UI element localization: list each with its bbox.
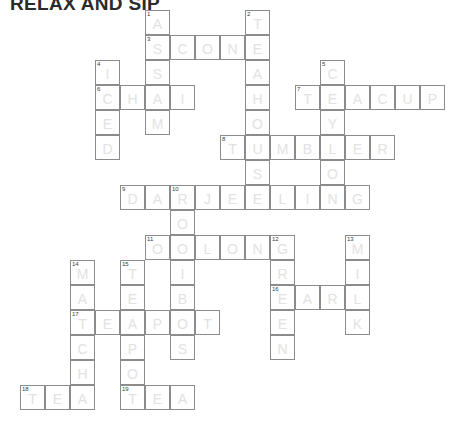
grid-cell[interactable]: B	[295, 135, 320, 160]
cell-letter: T	[121, 386, 144, 409]
grid-cell[interactable]: 10R	[170, 185, 195, 210]
grid-cell[interactable]: E	[320, 85, 345, 110]
grid-cell[interactable]: A	[70, 385, 95, 410]
grid-cell[interactable]: 3S	[145, 35, 170, 60]
grid-cell[interactable]: H	[120, 85, 145, 110]
grid-cell[interactable]: N	[245, 235, 270, 260]
cell-letter: T	[121, 261, 144, 284]
grid-cell[interactable]: 19T	[120, 385, 145, 410]
grid-cell[interactable]: O	[170, 310, 195, 335]
grid-cell[interactable]: S	[145, 60, 170, 85]
grid-cell[interactable]: J	[195, 185, 220, 210]
grid-cell[interactable]: L	[345, 285, 370, 310]
grid-cell[interactable]: M	[270, 135, 295, 160]
grid-cell[interactable]: E	[245, 185, 270, 210]
cell-letter: U	[396, 86, 419, 109]
grid-cell[interactable]: O	[170, 210, 195, 235]
grid-cell[interactable]: P	[145, 310, 170, 335]
grid-cell[interactable]: G	[345, 185, 370, 210]
grid-cell[interactable]: L	[320, 135, 345, 160]
grid-cell[interactable]: 14M	[70, 260, 95, 285]
grid-cell[interactable]: A	[145, 185, 170, 210]
grid-cell[interactable]: O	[220, 235, 245, 260]
grid-cell[interactable]: I	[345, 260, 370, 285]
grid-cell[interactable]: C	[170, 35, 195, 60]
cell-letter: T	[296, 86, 319, 109]
grid-cell[interactable]: S	[170, 335, 195, 360]
grid-cell[interactable]: H	[245, 85, 270, 110]
grid-cell[interactable]: 11O	[145, 235, 170, 260]
grid-cell[interactable]: N	[320, 185, 345, 210]
grid-cell[interactable]: A	[245, 60, 270, 85]
grid-cell[interactable]: 6C	[95, 85, 120, 110]
grid-cell[interactable]: R	[270, 260, 295, 285]
grid-cell[interactable]: E	[95, 110, 120, 135]
grid-cell[interactable]: 7T	[295, 85, 320, 110]
grid-cell[interactable]: K	[345, 310, 370, 335]
grid-cell[interactable]: U	[245, 135, 270, 160]
grid-cell[interactable]: 4I	[95, 60, 120, 85]
grid-cell[interactable]: A	[295, 285, 320, 310]
grid-cell[interactable]: E	[245, 35, 270, 60]
grid-cell[interactable]: I	[295, 185, 320, 210]
cell-letter: O	[121, 361, 144, 384]
grid-cell[interactable]: 16E	[270, 285, 295, 310]
grid-cell[interactable]: B	[170, 285, 195, 310]
grid-cell[interactable]: E	[120, 285, 145, 310]
grid-cell[interactable]: A	[145, 85, 170, 110]
grid-cell[interactable]: A	[345, 85, 370, 110]
grid-cell[interactable]: O	[245, 110, 270, 135]
grid-cell[interactable]: O	[320, 160, 345, 185]
grid-cell[interactable]: D	[95, 135, 120, 160]
grid-cell[interactable]: E	[345, 135, 370, 160]
cell-letter: L	[346, 286, 369, 309]
cell-letter: E	[246, 36, 269, 59]
grid-cell[interactable]: C	[70, 335, 95, 360]
grid-cell[interactable]: S	[245, 160, 270, 185]
grid-cell[interactable]: O	[120, 360, 145, 385]
grid-cell[interactable]: 5C	[320, 60, 345, 85]
grid-cell[interactable]: R	[370, 135, 395, 160]
grid-cell[interactable]: 17T	[70, 310, 95, 335]
crossword-grid[interactable]: 1A2T3SCONE4ISA5C6CHAIH7TEACUPEMOYD8TUMBL…	[0, 0, 462, 421]
grid-cell[interactable]: T	[195, 310, 220, 335]
grid-cell[interactable]: P	[120, 335, 145, 360]
cell-letter: O	[221, 236, 244, 259]
cell-letter: S	[146, 36, 169, 59]
grid-cell[interactable]: Y	[320, 110, 345, 135]
grid-cell[interactable]: A	[120, 310, 145, 335]
grid-cell[interactable]: 2T	[245, 10, 270, 35]
grid-cell[interactable]: 1A	[145, 10, 170, 35]
grid-cell[interactable]: N	[220, 35, 245, 60]
grid-cell[interactable]: 15T	[120, 260, 145, 285]
grid-cell[interactable]: H	[70, 360, 95, 385]
grid-cell[interactable]: O	[195, 35, 220, 60]
grid-cell[interactable]: R	[320, 285, 345, 310]
grid-cell[interactable]: I	[170, 85, 195, 110]
cell-letter: K	[346, 311, 369, 334]
grid-cell[interactable]: 9D	[120, 185, 145, 210]
grid-cell[interactable]: O	[170, 235, 195, 260]
grid-cell[interactable]: A	[70, 285, 95, 310]
grid-cell[interactable]: A	[170, 385, 195, 410]
grid-cell[interactable]: L	[195, 235, 220, 260]
grid-cell[interactable]: E	[220, 185, 245, 210]
grid-cell[interactable]: 12G	[270, 235, 295, 260]
cell-letter: P	[146, 311, 169, 334]
grid-cell[interactable]: N	[270, 335, 295, 360]
grid-cell[interactable]: C	[370, 85, 395, 110]
grid-cell[interactable]: E	[95, 310, 120, 335]
grid-cell[interactable]: 18T	[20, 385, 45, 410]
grid-cell[interactable]: 8T	[220, 135, 245, 160]
grid-cell[interactable]: I	[170, 260, 195, 285]
grid-cell[interactable]: L	[270, 185, 295, 210]
grid-cell[interactable]: U	[395, 85, 420, 110]
cell-letter: N	[221, 36, 244, 59]
grid-cell[interactable]: E	[270, 310, 295, 335]
grid-cell[interactable]: E	[45, 385, 70, 410]
grid-cell[interactable]: M	[145, 110, 170, 135]
grid-cell[interactable]: P	[420, 85, 445, 110]
grid-cell[interactable]: E	[145, 385, 170, 410]
grid-cell[interactable]: 13M	[345, 235, 370, 260]
cell-letter: A	[71, 386, 94, 409]
